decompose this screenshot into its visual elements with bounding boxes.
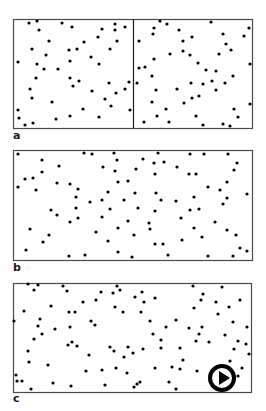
dot <box>141 347 144 350</box>
dot <box>76 187 79 190</box>
dot <box>106 190 109 193</box>
dot <box>178 346 181 349</box>
dot <box>217 52 220 55</box>
panel-label-b: b <box>13 262 21 273</box>
dot <box>81 107 84 110</box>
dot <box>32 337 35 340</box>
dot <box>121 310 124 313</box>
dot <box>23 123 26 126</box>
dot <box>182 101 185 104</box>
dot <box>181 358 184 361</box>
dot <box>192 195 195 198</box>
dot <box>151 32 154 35</box>
dot <box>118 288 121 291</box>
dot <box>228 124 231 127</box>
dot <box>89 319 92 322</box>
dot <box>68 220 71 223</box>
dot <box>218 188 221 191</box>
dot <box>135 382 138 385</box>
dot <box>236 374 239 377</box>
dot <box>61 284 64 287</box>
dot <box>68 182 71 185</box>
dot <box>28 87 31 90</box>
dot <box>216 312 219 315</box>
dot <box>235 161 238 164</box>
dot <box>234 233 237 236</box>
dot <box>221 32 224 35</box>
dot <box>236 339 239 342</box>
dot <box>158 19 161 22</box>
dot <box>16 60 19 63</box>
dot <box>132 233 135 236</box>
dot <box>81 300 84 303</box>
dot <box>29 387 32 390</box>
dot <box>116 226 119 229</box>
dot <box>194 339 197 342</box>
dot <box>83 253 86 256</box>
dot <box>152 26 155 29</box>
dot <box>97 62 100 65</box>
dot <box>141 157 144 160</box>
dot <box>28 227 31 230</box>
dot <box>99 290 102 293</box>
dot <box>188 53 191 56</box>
dot <box>87 353 90 356</box>
dot <box>47 39 50 42</box>
dot <box>71 84 74 87</box>
dot <box>206 185 209 188</box>
dot <box>248 62 251 65</box>
dot <box>100 368 103 371</box>
dot <box>195 369 198 372</box>
dot <box>187 326 190 329</box>
dot <box>20 379 23 382</box>
play-button[interactable] <box>208 364 236 392</box>
dot <box>90 152 93 155</box>
dot <box>35 62 38 65</box>
dot <box>68 76 71 79</box>
dot <box>201 82 204 85</box>
dot <box>27 21 30 24</box>
dot <box>108 345 111 348</box>
dot <box>114 91 117 94</box>
dot <box>197 207 200 210</box>
dot <box>122 198 125 201</box>
dot <box>31 121 34 124</box>
dot <box>153 242 156 245</box>
dot <box>101 165 104 168</box>
dot <box>150 100 153 103</box>
dot <box>90 89 93 92</box>
dot <box>73 310 76 313</box>
dot <box>97 115 100 118</box>
dot <box>168 52 171 55</box>
dot <box>161 242 164 245</box>
dot <box>15 379 18 382</box>
dot <box>82 151 85 154</box>
dot <box>70 340 73 343</box>
dot <box>245 249 248 252</box>
dot <box>88 200 91 203</box>
dot <box>68 59 71 62</box>
dot <box>67 48 70 51</box>
dot <box>167 120 170 123</box>
dot <box>232 347 235 350</box>
dot <box>16 185 19 188</box>
dot <box>122 355 125 358</box>
dot <box>225 180 228 183</box>
dot <box>36 324 39 327</box>
panel-label-c: c <box>13 393 20 404</box>
dot <box>136 206 139 209</box>
dot <box>162 160 165 163</box>
dot <box>67 254 70 257</box>
dot <box>225 228 228 231</box>
dot <box>247 352 250 355</box>
dot <box>100 27 103 30</box>
dot <box>240 366 243 369</box>
figure-canvas <box>0 0 266 411</box>
dot <box>69 384 72 387</box>
dot <box>148 227 151 230</box>
dot <box>133 191 136 194</box>
dot <box>115 158 118 161</box>
dot <box>40 332 43 335</box>
dot <box>137 39 140 42</box>
dot <box>221 122 224 125</box>
